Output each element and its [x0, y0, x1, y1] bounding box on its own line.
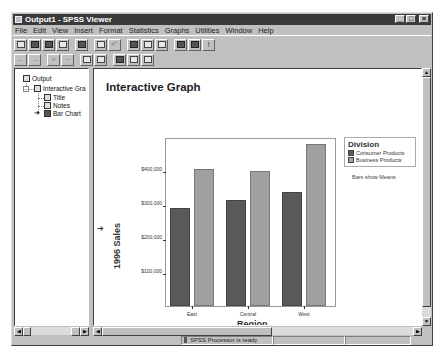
- spss-viewer-window: Output1 - SPSS Viewer _ □ × File Edit Vi…: [11, 12, 433, 346]
- menu-edit[interactable]: Edit: [33, 26, 46, 35]
- menu-insert[interactable]: Insert: [74, 26, 93, 35]
- menu-window[interactable]: Window: [225, 26, 252, 35]
- outline-horizontal-scrollbar[interactable]: ◀ ▶: [14, 326, 89, 335]
- run-icon: !: [207, 40, 209, 49]
- selected-arrow-icon: ➔: [34, 109, 40, 117]
- x-tick: [304, 306, 305, 309]
- y-axis-label: 1996 Sales: [112, 223, 122, 269]
- bar-central-consumer[interactable]: [226, 200, 246, 306]
- close-button[interactable]: ×: [419, 15, 429, 23]
- goto-data-button[interactable]: [127, 39, 140, 51]
- menu-help[interactable]: Help: [258, 26, 273, 35]
- content-vertical-scrollbar[interactable]: ▲ ▼: [422, 68, 431, 326]
- tree-item-notes[interactable]: Notes: [44, 102, 70, 109]
- maximize-button[interactable]: □: [406, 15, 416, 23]
- scroll-thumb-end[interactable]: [71, 327, 80, 336]
- processor-icon: [184, 337, 187, 343]
- scroll-down-button[interactable]: ▼: [422, 317, 431, 326]
- dialog-recall-button[interactable]: [94, 39, 107, 51]
- resize-grip[interactable]: [411, 336, 431, 345]
- scroll-left-button[interactable]: ◀: [14, 327, 23, 336]
- print-button[interactable]: [42, 39, 55, 51]
- bar-chart[interactable]: East Central West: [165, 138, 336, 307]
- undo-button[interactable]: ↶: [108, 39, 121, 51]
- variables-icon: [158, 41, 166, 48]
- run-button[interactable]: !: [202, 39, 215, 51]
- notes-icon: [44, 102, 51, 109]
- scroll-right-button[interactable]: ▶: [413, 327, 422, 336]
- designate-window-button[interactable]: [174, 39, 187, 51]
- print-preview-button[interactable]: [56, 39, 69, 51]
- book-icon: [34, 85, 41, 92]
- export-icon: [78, 41, 86, 48]
- expand-button[interactable]: +: [47, 54, 60, 66]
- tree-item-interactive-graph[interactable]: Interactive Gra: [34, 85, 86, 92]
- tree-item-bar-chart[interactable]: Bar Chart: [44, 110, 81, 117]
- menu-utilities[interactable]: Utilities: [195, 26, 219, 35]
- x-tick: [248, 306, 249, 309]
- show-button[interactable]: [80, 54, 93, 66]
- scroll-right-button[interactable]: ▶: [80, 327, 89, 336]
- open-button[interactable]: [14, 39, 27, 51]
- x-tick-label: Central: [240, 311, 256, 317]
- insert-heading-button[interactable]: [113, 54, 126, 66]
- menu-view[interactable]: View: [52, 26, 68, 35]
- scroll-thumb[interactable]: [23, 327, 31, 336]
- tree-item-title[interactable]: Title: [44, 94, 65, 101]
- save-button[interactable]: [28, 39, 41, 51]
- print-icon: [45, 41, 53, 48]
- window-title: Output1 - SPSS Viewer: [25, 15, 112, 24]
- spss-app-icon: [15, 16, 22, 23]
- title-icon: [44, 94, 51, 101]
- scroll-left-button[interactable]: ◀: [93, 327, 102, 336]
- legend-swatch: [348, 150, 354, 156]
- goto-chart-button[interactable]: [141, 39, 154, 51]
- promote-button[interactable]: ←: [14, 54, 27, 66]
- insert-title-button[interactable]: [127, 54, 140, 66]
- status-bar: SPSS Processor is ready: [13, 336, 431, 345]
- menu-file[interactable]: File: [15, 26, 27, 35]
- y-tick-label: $400,000: [128, 166, 162, 172]
- menu-format[interactable]: Format: [99, 26, 123, 35]
- minimize-button[interactable]: _: [395, 15, 405, 23]
- export-button[interactable]: [75, 39, 88, 51]
- content-pane[interactable]: Interactive Graph ➔ 1996 Sales East Cent…: [93, 68, 422, 326]
- insert-title-icon: [130, 56, 138, 63]
- bar-central-business[interactable]: [250, 171, 270, 306]
- y-tick-label: $100,000: [128, 268, 162, 274]
- vertical-scroll-thumb[interactable]: [422, 77, 431, 307]
- horizontal-scroll-thumb[interactable]: [102, 327, 272, 336]
- select-last-output-icon: [191, 41, 199, 48]
- variables-button[interactable]: [155, 39, 168, 51]
- standard-toolbar: ↶ !: [14, 38, 215, 51]
- scroll-up-button[interactable]: ▲: [422, 68, 431, 77]
- x-tick-label: East: [187, 311, 197, 317]
- designate-window-icon: [177, 41, 185, 48]
- bar-east-consumer[interactable]: [170, 208, 190, 306]
- menu-graphs[interactable]: Graphs: [165, 26, 190, 35]
- bar-west-consumer[interactable]: [282, 192, 302, 306]
- status-message: SPSS Processor is ready: [181, 336, 273, 345]
- tree-item-output[interactable]: Output: [23, 75, 52, 82]
- insert-text-button[interactable]: [141, 54, 154, 66]
- goto-chart-icon: [144, 41, 152, 48]
- menu-statistics[interactable]: Statistics: [129, 26, 159, 35]
- status-cell-2: [273, 336, 345, 345]
- chart-legend: Division Consumer Products Business Prod…: [344, 137, 416, 167]
- collapse-button[interactable]: −: [61, 54, 74, 66]
- bar-east-business[interactable]: [194, 169, 214, 306]
- hide-button[interactable]: [94, 54, 107, 66]
- open-icon: [17, 41, 25, 48]
- bar-west-business[interactable]: [306, 144, 326, 306]
- page-title: Interactive Graph: [106, 81, 201, 93]
- x-tick-label: West: [298, 311, 309, 317]
- dialog-recall-icon: [97, 41, 105, 48]
- outline-pane[interactable]: Output − Interactive Gra Title Notes ➔ B…: [14, 68, 89, 326]
- demote-button[interactable]: →: [28, 54, 41, 66]
- legend-item-business: Business Products: [348, 156, 412, 163]
- tree-label: Notes: [53, 102, 70, 109]
- undo-icon: ↶: [111, 40, 118, 49]
- status-cell-3: [345, 336, 411, 345]
- select-last-output-button[interactable]: [188, 39, 201, 51]
- content-horizontal-scrollbar[interactable]: ◀ ▶: [93, 326, 422, 335]
